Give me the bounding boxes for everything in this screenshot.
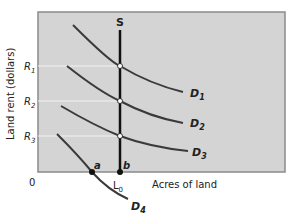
- label-a: a: [94, 160, 101, 171]
- label-r1: R1: [24, 61, 35, 75]
- label-r2: R2: [24, 96, 36, 110]
- label-origin: 0: [29, 177, 35, 188]
- label-r3: R3: [24, 131, 35, 145]
- x-axis-label: Acres of land: [152, 179, 217, 190]
- label-b: b: [123, 160, 130, 171]
- label-d4: D4: [131, 200, 146, 215]
- point-r3: [118, 134, 123, 139]
- label-s: S: [116, 16, 124, 29]
- y-axis-label: Land rent (dollars): [5, 48, 16, 140]
- rent-chart: S D1 D2 D3 D4 R1 R2 R3 a b L0 0 Acres of…: [0, 0, 296, 221]
- point-r2: [118, 99, 123, 104]
- point-r1: [118, 64, 123, 69]
